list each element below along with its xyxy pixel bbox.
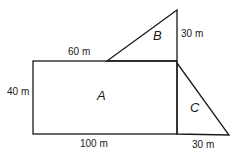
dimension-30m-base: 30 m [192,139,214,150]
dimension-60m: 60 m [68,46,90,57]
region-a-label: A [96,88,106,103]
geometry-diagram: A B C 60 m 40 m 100 m 30 m 30 m [0,0,236,157]
region-c-triangle [177,63,229,135]
dimension-40m: 40 m [7,86,29,97]
region-c-label: C [190,100,200,115]
dimension-30m-vertical: 30 m [181,28,203,39]
region-b-triangle [107,10,177,61]
region-b-label: B [153,28,162,43]
dimension-100m: 100 m [80,138,108,149]
